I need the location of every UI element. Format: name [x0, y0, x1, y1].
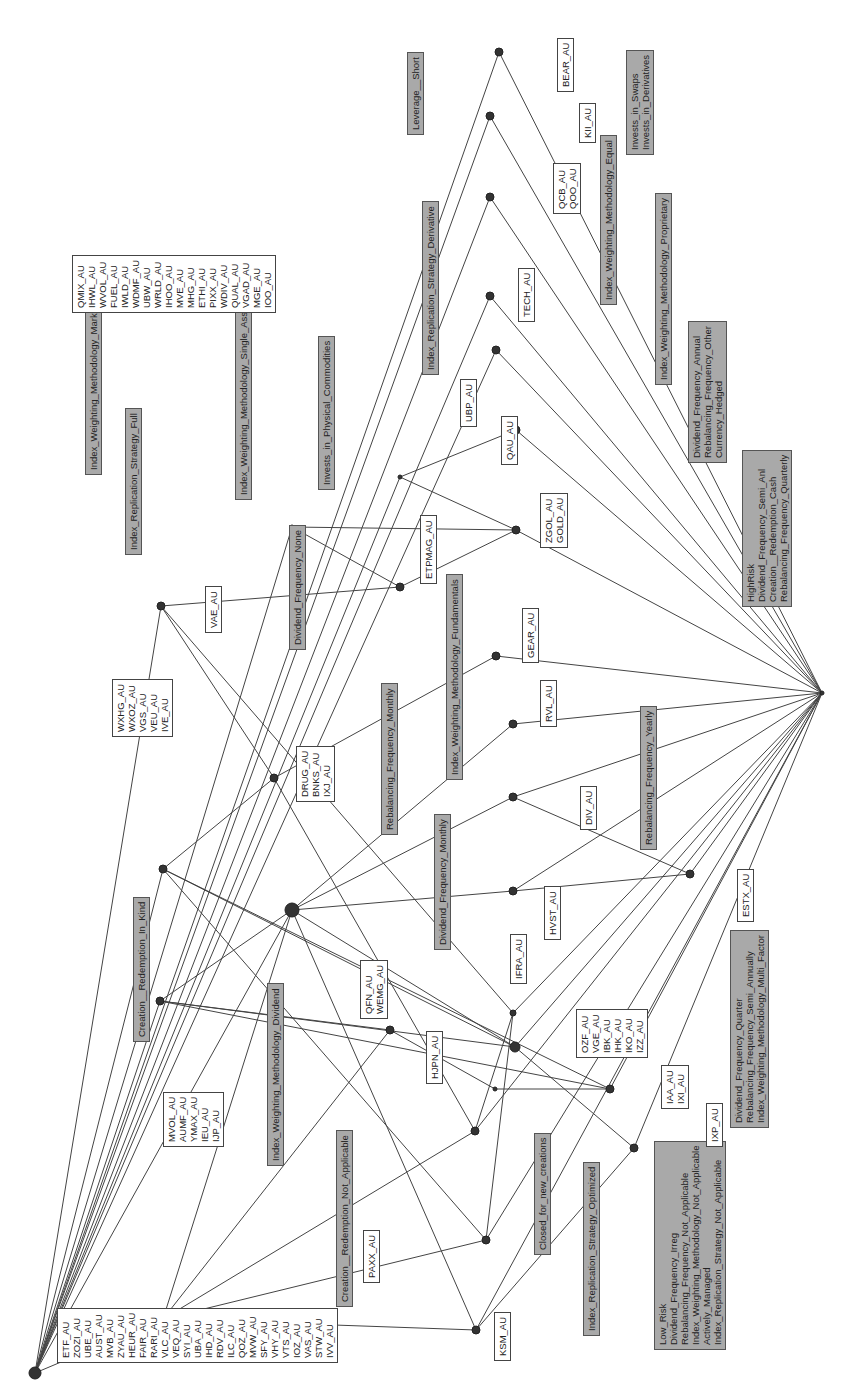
lattice-node[interactable] — [820, 691, 824, 695]
lattice-node[interactable] — [486, 112, 494, 120]
object-label-text: IXI_AU — [675, 1070, 686, 1104]
object-label-text: STW_AU — [313, 1313, 324, 1358]
object-label-text: VLC_AU — [159, 1313, 170, 1358]
attribute-label-box: Invests_in_Physical_Commodities — [318, 336, 335, 490]
object-label-text: WDIV_AU — [218, 260, 229, 308]
lattice-edge — [690, 693, 822, 874]
object-label-box: HJPN_AU — [426, 1031, 443, 1084]
object-label-text: IKO_AU — [623, 1014, 634, 1053]
attribute-label-text: Rebalancing_Frequency_Not_Applicable — [679, 1146, 690, 1345]
object-label-text: MVOL_AU — [166, 1097, 177, 1142]
attribute-label-text: Creation__Redemption_Not_Applicable — [339, 1135, 350, 1302]
attribute-label-text: Index_Replication_Strategy_Full — [128, 413, 139, 550]
attribute-label-text: Rebalancing_Frequency_Yearly — [643, 711, 654, 845]
lattice-node[interactable] — [270, 774, 278, 782]
lattice-edge — [163, 778, 274, 869]
lattice-node[interactable] — [386, 1026, 394, 1034]
lattice-node[interactable] — [486, 193, 494, 201]
attribute-label-text: Dividend_Frequency_Monthly — [437, 819, 448, 945]
object-label-text: WVOL_AU — [97, 260, 108, 308]
attribute-label-box: Index_Weighting_Methodology_Equal — [600, 135, 617, 305]
lattice-node[interactable] — [285, 903, 299, 917]
object-label-box: KSM_AU — [494, 1312, 511, 1361]
lattice-node[interactable] — [492, 652, 500, 660]
lattice-node[interactable] — [486, 292, 494, 300]
object-label-text: AUST_AU — [93, 1313, 104, 1358]
lattice-edge — [163, 1131, 475, 1319]
attribute-label-text: Closed_for_new_creations — [537, 1138, 548, 1250]
attribute-label-box: Dividend_Frequency_QuarterRebalancing_Fr… — [730, 930, 769, 1128]
lattice-node[interactable] — [686, 870, 694, 878]
lattice-node[interactable] — [512, 526, 520, 534]
object-label-text: HEUR_AU — [126, 1313, 137, 1358]
attribute-label-text: Index_Weighting_Methodology_Fundamentals — [449, 579, 460, 775]
lattice-node[interactable] — [472, 1326, 480, 1334]
lattice-node[interactable] — [495, 48, 503, 56]
attribute-label-box: Dividend_Frequency_Monthly — [434, 814, 451, 950]
attribute-label-text: Rebalancing_Frequency_Monthly — [384, 688, 395, 830]
lattice-node[interactable] — [630, 1144, 638, 1152]
lattice-edge — [35, 527, 292, 1373]
attribute-label-box: Invests_in_SwapsInvests_in_Derivatives — [626, 50, 654, 155]
attribute-label-text: Index_Weighting_Methodology_Dividend — [270, 988, 281, 1161]
object-label-box: ZGOL_AUGOLD_AU — [540, 493, 568, 548]
lattice-node[interactable] — [398, 475, 402, 479]
object-label-text: MVW_AU — [247, 1313, 258, 1358]
lattice-node[interactable] — [159, 865, 167, 873]
lattice-edge — [35, 350, 496, 1373]
lattice-node[interactable] — [510, 1042, 520, 1052]
object-label-box: RVL_AU — [540, 680, 557, 727]
object-label-text: ETHI_AU — [196, 260, 207, 308]
object-label-text: YMAX_AU — [188, 1097, 199, 1142]
object-label-text: IAA_AU — [664, 1070, 675, 1104]
attribute-label-box: Index_Weighting_Methodology_Single_Asset — [235, 299, 252, 500]
object-label-text: MGE_AU — [251, 260, 262, 308]
attribute-label-box: Creation__Redemption_In_Kind — [133, 897, 150, 1042]
lattice-edge — [161, 587, 400, 606]
object-label-text: ESTX_AU — [740, 874, 751, 917]
object-label-box: MVOL_AUAUMF_AUYMAX_AUIEU_AUIJP_AU — [163, 1092, 224, 1147]
lattice-edge — [476, 1148, 634, 1330]
object-label-text: IHWL_AU — [86, 260, 97, 308]
object-label-text: WEMG_AU — [374, 965, 385, 1014]
object-label-text: HJPN_AU — [429, 1036, 440, 1079]
lattice-edge — [292, 797, 513, 910]
lattice-node[interactable] — [606, 1085, 614, 1093]
attribute-label-text: Invests_in_Swaps — [629, 55, 640, 150]
object-label-box: DRUG_AUBNKS_AUIXJ_AU — [296, 746, 335, 802]
object-label-text: ZGOL_AU — [543, 498, 554, 543]
object-label-text: QOZ_AU — [236, 1313, 247, 1358]
object-label-text: HVST_AU — [547, 891, 558, 935]
lattice-node[interactable] — [29, 1367, 41, 1379]
lattice-edge — [513, 693, 822, 891]
lattice-node[interactable] — [157, 602, 165, 610]
object-label-box: VAE_AU — [205, 586, 222, 633]
lattice-edge — [292, 910, 515, 1047]
object-label-box: IAA_AUIXI_AU — [661, 1065, 689, 1109]
lattice-edge — [486, 1013, 513, 1240]
attribute-label-text: Dividend_Frequency_Semi_Anl — [756, 455, 767, 602]
lattice-edge — [35, 296, 490, 1373]
object-label-text: ETPMAG_AU — [423, 520, 434, 579]
lattice-node[interactable] — [509, 793, 517, 801]
object-label-text: IVE_AU — [159, 684, 170, 732]
lattice-node[interactable] — [509, 720, 517, 728]
object-label-text: VHY_AU — [269, 1313, 280, 1358]
lattice-node[interactable] — [396, 583, 404, 591]
lattice-node[interactable] — [482, 1236, 490, 1244]
object-label-text: QAU_AU — [504, 421, 515, 460]
object-label-text: IOO_AU — [262, 260, 273, 308]
object-label-text: UBP_AU — [463, 384, 474, 422]
attribute-label-box: Leverage__Short — [407, 52, 424, 135]
attribute-label-text: Rebalancing_Frequency_Quarterly — [778, 455, 789, 602]
object-label-text: DRUG_AU — [299, 751, 310, 797]
lattice-node[interactable] — [492, 346, 500, 354]
object-label-text: VAS_AU — [302, 1313, 313, 1358]
lattice-node[interactable] — [471, 1127, 479, 1135]
lattice-node[interactable] — [509, 887, 517, 895]
lattice-node[interactable] — [156, 997, 164, 1005]
lattice-node[interactable] — [493, 1087, 497, 1091]
object-label-box: IFRA_AU — [510, 934, 527, 984]
lattice-node[interactable] — [510, 1010, 516, 1016]
lattice-edge — [513, 874, 690, 891]
